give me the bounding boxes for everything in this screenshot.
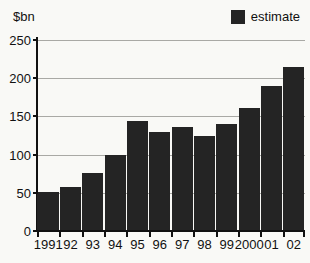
- bar-2000: [239, 108, 260, 231]
- gridline: [38, 40, 305, 41]
- bar-93: [82, 173, 103, 231]
- y-axis-unit-label: $bn: [13, 9, 35, 24]
- x-tick-label: 02: [287, 238, 301, 252]
- y-tick: [33, 77, 38, 79]
- x-tick: [104, 232, 106, 237]
- x-tick: [171, 232, 173, 237]
- x-tick-label: 96: [153, 238, 167, 252]
- y-tick-label: 100: [0, 148, 31, 161]
- x-tick: [149, 232, 151, 237]
- bar-92: [60, 187, 81, 231]
- bar-99: [216, 124, 237, 231]
- bar-96: [149, 132, 170, 231]
- x-tick-label: 93: [86, 238, 100, 252]
- gridline: [38, 78, 305, 79]
- bar-02: [283, 67, 304, 231]
- legend-swatch-icon: [231, 10, 245, 24]
- y-tick-label: 200: [0, 72, 31, 85]
- bar-98: [194, 136, 215, 232]
- y-tick-label: 150: [0, 110, 31, 123]
- plot-area: [37, 40, 305, 231]
- x-tick-label: 98: [197, 238, 211, 252]
- x-tick-label: 1991: [34, 238, 63, 252]
- y-tick: [33, 39, 38, 41]
- x-tick: [126, 232, 128, 237]
- x-tick-label: 92: [63, 238, 77, 252]
- y-tick: [33, 192, 38, 194]
- x-tick-label: 95: [130, 238, 144, 252]
- bar-94: [105, 155, 126, 231]
- bar-chart-figure: $bn estimate 050100150200250199192939495…: [0, 0, 310, 263]
- y-tick-label: 50: [0, 186, 31, 199]
- x-tick: [216, 232, 218, 237]
- bar-1991: [37, 192, 59, 231]
- x-tick: [82, 232, 84, 237]
- x-tick: [59, 232, 61, 237]
- bar-01: [261, 86, 282, 231]
- x-tick-label: 99: [220, 238, 234, 252]
- x-tick: [303, 232, 305, 237]
- x-tick: [260, 232, 262, 237]
- x-tick-label: 01: [264, 238, 278, 252]
- y-tick: [33, 154, 38, 156]
- y-tick-label: 250: [0, 34, 31, 47]
- bar-95: [127, 121, 148, 231]
- x-tick: [283, 232, 285, 237]
- x-tick: [238, 232, 240, 237]
- x-tick-label: 94: [108, 238, 122, 252]
- x-tick-label: 97: [175, 238, 189, 252]
- legend-label: estimate: [251, 9, 300, 24]
- y-tick: [33, 115, 38, 117]
- legend: estimate: [231, 9, 300, 24]
- x-tick: [37, 232, 39, 237]
- bar-97: [172, 127, 193, 231]
- x-tick: [193, 232, 195, 237]
- x-tick-label: 2000: [235, 238, 264, 252]
- y-tick-label: 0: [0, 225, 31, 238]
